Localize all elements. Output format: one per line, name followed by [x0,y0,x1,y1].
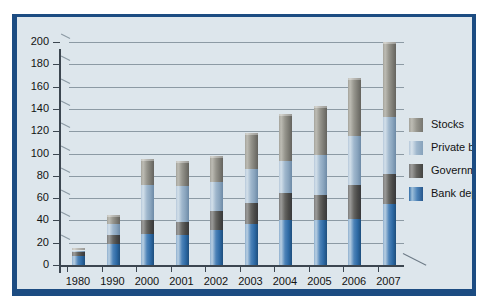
bar-segment-stocks[interactable] [348,78,361,136]
bar-column-2001[interactable] [176,17,189,265]
bar-segment-private[interactable] [210,182,223,211]
y-axis-tick [53,42,60,43]
y-axis-line [59,49,61,273]
bar-segment-deposits[interactable] [72,256,85,265]
bar-segment-gov[interactable] [107,235,120,244]
bar-top-cap [210,156,223,158]
bar-segment-gov[interactable] [245,203,258,224]
y-axis-tick-label: 180 [17,58,49,69]
bar-segment-stocks[interactable] [314,106,327,155]
x-axis-line [59,265,404,267]
bar-segment-private[interactable] [176,186,189,222]
gridline-depth-edge [61,190,70,195]
legend-swatch-private-icon [409,141,423,155]
y-axis-tick-label: 20 [17,237,49,248]
y-axis-tick-label: 120 [17,125,49,136]
bar-segment-gov[interactable] [176,222,189,235]
bar-segment-private[interactable] [141,185,154,221]
bar-top-cap [348,78,361,80]
chart-panel: 0204060801001201401601802001980199020002… [17,17,472,289]
legend-swatch-deposits-icon [409,187,423,201]
y-axis-tick-label: 160 [17,81,49,92]
x-axis-tick [309,265,310,272]
bar-segment-gov[interactable] [383,174,396,204]
bar-segment-deposits[interactable] [176,235,189,265]
legend-label: Bank deposits [431,186,472,200]
x-axis-tick [67,265,68,272]
x-axis-tick [274,265,275,272]
legend-item-stocks[interactable]: Stocks [409,115,472,138]
x-axis-tick [343,265,344,272]
chart-legend: StocksPrivate bondsGovernment bondsBank … [409,115,472,207]
bar-segment-gov[interactable] [210,211,223,230]
legend-label: Stocks [431,117,464,131]
bar-column-2002[interactable] [210,17,223,265]
bar-segment-deposits[interactable] [314,220,327,265]
bar-segment-deposits[interactable] [383,204,396,265]
bar-top-cap [72,248,85,250]
bar-top-cap [176,161,189,163]
x-axis-tick-label: 2007 [369,275,409,287]
bar-segment-private[interactable] [72,251,85,252]
bar-segment-deposits[interactable] [210,230,223,265]
bar-top-cap [279,114,292,116]
plot-area: 0204060801001201401601802001980199020002… [17,17,472,289]
bar-segment-deposits[interactable] [141,234,154,265]
y-axis-tick-label: 60 [17,192,49,203]
bar-segment-private[interactable] [314,155,327,195]
bar-segment-stocks[interactable] [176,161,189,186]
bar-segment-stocks[interactable] [141,159,154,185]
x-axis-tick [205,265,206,272]
gridline-depth-edge [61,78,70,83]
bar-top-cap [107,215,120,217]
bar-column-2003[interactable] [245,17,258,265]
bar-segment-private[interactable] [348,136,361,185]
chart-figure: 0204060801001201401601802001980199020002… [0,0,487,307]
bar-column-2000[interactable] [141,17,154,265]
bar-segment-stocks[interactable] [245,133,258,169]
bar-segment-gov[interactable] [141,220,154,233]
gridline-depth-edge [61,56,70,61]
bar-segment-gov[interactable] [314,195,327,221]
legend-item-gov[interactable]: Government bonds [409,161,472,184]
legend-label: Private bonds [431,140,472,154]
y-axis-tick-label: 0 [17,259,49,270]
bar-segment-stocks[interactable] [383,42,396,117]
bar-segment-gov[interactable] [279,193,292,221]
bar-column-2006[interactable] [348,17,361,265]
bar-column-2004[interactable] [279,17,292,265]
bar-column-1990[interactable] [107,17,120,265]
bar-segment-private[interactable] [279,161,292,192]
bar-segment-deposits[interactable] [348,219,361,265]
legend-swatch-stocks-icon [409,118,423,132]
bar-segment-stocks[interactable] [279,114,292,161]
x-axis-tick [102,265,103,272]
x-axis-tick [240,265,241,272]
bar-column-2005[interactable] [314,17,327,265]
gridline-depth-edge [61,123,70,128]
x-axis-tick [171,265,172,272]
bar-segment-stocks[interactable] [210,156,223,183]
bar-segment-private[interactable] [383,117,396,174]
bar-segment-private[interactable] [107,224,120,235]
bar-top-cap [383,42,396,44]
bar-top-cap [141,159,154,161]
legend-item-deposits[interactable]: Bank deposits [409,184,472,207]
bar-segment-gov[interactable] [348,185,361,220]
bar-column-1980[interactable] [72,17,85,265]
y-axis-tick-label: 100 [17,148,49,159]
bar-segment-private[interactable] [245,169,258,202]
bar-segment-gov[interactable] [72,252,85,256]
gridline-depth-edge [61,34,70,39]
gridline-depth-edge [61,145,70,150]
bar-segment-deposits[interactable] [107,244,120,265]
x-axis-tick [378,265,379,272]
y-axis-tick-label: 200 [17,36,49,47]
bar-segment-deposits[interactable] [279,220,292,265]
floor-depth-edge [403,253,427,266]
y-axis-tick-label: 40 [17,214,49,225]
bar-column-2007[interactable] [383,17,396,265]
legend-item-private[interactable]: Private bonds [409,138,472,161]
bar-segment-deposits[interactable] [245,224,258,265]
chart-frame-shadow: 0204060801001201401601802001980199020002… [12,14,476,296]
